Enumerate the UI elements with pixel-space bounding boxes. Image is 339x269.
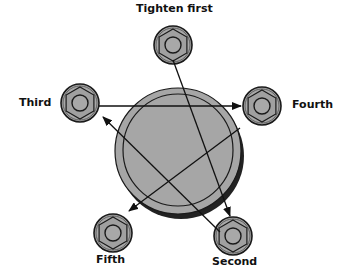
bolt-second (214, 217, 252, 255)
bolt-third (61, 84, 99, 122)
bolt-fourth (243, 87, 281, 125)
label-third: Third (19, 96, 51, 109)
label-fourth: Fourth (292, 98, 333, 111)
label-second: Second (212, 255, 257, 268)
bolt-first (154, 26, 192, 64)
hub-disk (115, 88, 244, 219)
tightening-sequence-diagram (0, 0, 339, 269)
bolt-fifth (94, 214, 132, 252)
label-fifth: Fifth (96, 253, 125, 266)
label-first: Tighten first (136, 2, 213, 15)
